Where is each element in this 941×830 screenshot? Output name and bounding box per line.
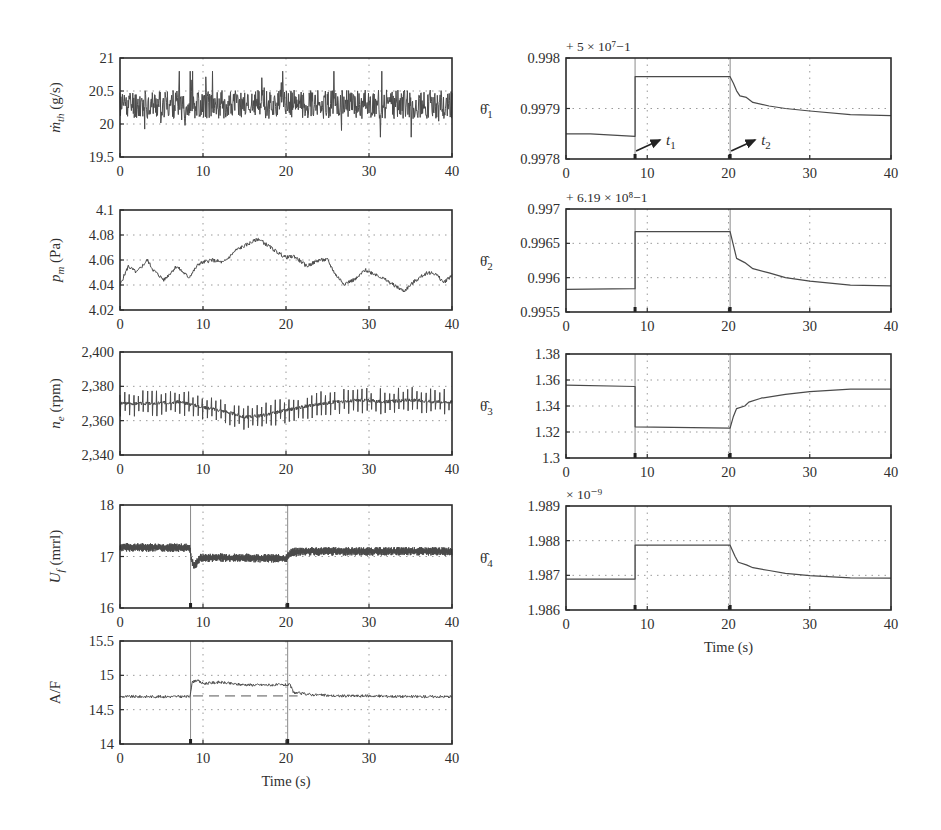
y-tick-label: 2,400 xyxy=(81,344,114,360)
series-line-ne xyxy=(120,387,452,429)
y-tick-label: 0.996 xyxy=(527,270,560,286)
x-tick-label: 0 xyxy=(562,318,569,334)
x-tick-label: 10 xyxy=(640,318,655,334)
x-tick-label: 20 xyxy=(721,616,736,632)
x-tick-label: 10 xyxy=(640,616,655,632)
y-tick-label: 2,360 xyxy=(81,413,114,429)
chart-panel-theta3: 0102030401.31.321.341.361.38θ̂3 xyxy=(480,346,898,480)
axis-multiplier: + 6.19 × 10⁸−1 xyxy=(566,190,648,205)
y-tick-label: 2,380 xyxy=(81,378,114,394)
series-line-theta1 xyxy=(566,77,891,137)
y-tick-label: 20 xyxy=(100,116,115,132)
y-axis-label: pm (Pa) xyxy=(47,238,66,283)
y-tick-label: 19.5 xyxy=(89,149,114,165)
x-tick-label: 40 xyxy=(445,461,460,477)
y-tick-label: 1.988 xyxy=(527,533,560,549)
x-tick-label: 40 xyxy=(445,163,460,179)
y-tick-label: 0.9979 xyxy=(520,101,560,117)
series-line-af xyxy=(120,680,452,698)
chart-panel-theta4: 0102030401.9861.9871.9881.989× 10⁻⁹θ̂4Ti… xyxy=(480,487,898,656)
y-axis-label: Uf (mrrl) xyxy=(47,530,66,583)
x-tick-label: 20 xyxy=(721,464,736,480)
y-axis-label: ṁth (g/s) xyxy=(47,82,66,133)
x-tick-label: 20 xyxy=(279,614,294,630)
y-tick-label: 21 xyxy=(100,50,115,66)
y-tick-label: 4.02 xyxy=(89,302,114,318)
plot-frame xyxy=(566,209,891,312)
y-tick-label: 14 xyxy=(100,736,115,752)
y-tick-label: 4.06 xyxy=(89,252,114,268)
y-tick-label: 4.08 xyxy=(89,227,114,243)
y-axis-label: θ̂1 xyxy=(480,101,493,120)
y-tick-label: 14.5 xyxy=(89,702,114,718)
series-line-pm xyxy=(120,238,452,292)
y-tick-label: 17 xyxy=(100,549,115,565)
x-tick-label: 10 xyxy=(640,165,655,181)
y-tick-label: 15 xyxy=(100,667,115,683)
x-tick-label: 30 xyxy=(362,163,377,179)
y-tick-label: 2,340 xyxy=(81,447,114,463)
figure: 01020304019.52020.521ṁth (g/s)0102030404… xyxy=(0,0,941,830)
x-tick-label: 10 xyxy=(196,316,211,332)
y-tick-label: 15.5 xyxy=(89,633,114,649)
y-axis-label: θ̂4 xyxy=(480,550,493,569)
chart-panel-ne: 0102030402,3402,3602,3802,400ne (rpm) xyxy=(47,344,459,477)
x-tick-label: 0 xyxy=(562,464,569,480)
x-tick-label: 10 xyxy=(196,461,211,477)
y-tick-label: 0.998 xyxy=(527,50,560,66)
y-tick-label: 1.3 xyxy=(542,450,560,466)
x-tick-label: 20 xyxy=(279,163,294,179)
chart-panel-af: 0102030401414.51515.5A/FTime (s) xyxy=(47,633,459,790)
x-tick-label: 0 xyxy=(116,750,123,766)
y-tick-label: 1.38 xyxy=(535,346,560,362)
series-line-theta4 xyxy=(566,545,891,579)
y-tick-label: 1.987 xyxy=(527,567,560,583)
y-tick-label: 4.04 xyxy=(89,277,115,293)
x-tick-label: 0 xyxy=(562,616,569,632)
y-axis-label: ne (rpm) xyxy=(47,378,66,428)
y-tick-label: 1.36 xyxy=(535,372,560,388)
chart-panel-mth: 01020304019.52020.521ṁth (g/s) xyxy=(47,50,459,179)
axis-multiplier: + 5 × 10⁷−1 xyxy=(566,39,631,54)
x-tick-label: 40 xyxy=(445,316,460,332)
x-tick-label: 20 xyxy=(721,318,736,334)
x-tick-label: 20 xyxy=(279,461,294,477)
event-label-t2: t2 xyxy=(761,132,771,151)
x-tick-label: 40 xyxy=(884,318,899,334)
x-tick-label: 20 xyxy=(721,165,736,181)
plot-frame xyxy=(120,641,452,744)
x-tick-label: 40 xyxy=(884,616,899,632)
x-tick-label: 40 xyxy=(445,614,460,630)
chart-panel-theta2: 0102030400.99550.9960.99650.997+ 6.19 × … xyxy=(480,190,898,334)
x-tick-label: 30 xyxy=(803,464,818,480)
y-tick-label: 4.1 xyxy=(96,202,114,218)
chart-panel-theta1: 0102030400.99780.99790.998+ 5 × 10⁷−1θ̂1… xyxy=(480,39,898,181)
x-tick-label: 10 xyxy=(640,464,655,480)
y-tick-label: 20.5 xyxy=(89,83,114,99)
y-tick-label: 0.9955 xyxy=(520,304,560,320)
y-tick-label: 18 xyxy=(100,497,115,513)
y-tick-label: 1.986 xyxy=(527,602,560,618)
y-tick-label: 0.9965 xyxy=(520,235,560,251)
x-tick-label: 20 xyxy=(279,316,294,332)
x-tick-label: 40 xyxy=(884,464,899,480)
y-axis-label: θ̂2 xyxy=(480,253,493,272)
y-axis-label: A/F xyxy=(47,681,63,704)
x-axis-title: Time (s) xyxy=(704,639,753,656)
y-tick-label: 1.34 xyxy=(535,398,561,414)
y-tick-label: 16 xyxy=(100,600,115,616)
y-tick-label: 0.9978 xyxy=(520,151,560,167)
x-tick-label: 10 xyxy=(196,614,211,630)
x-tick-label: 30 xyxy=(803,318,818,334)
x-tick-label: 40 xyxy=(884,165,899,181)
y-tick-label: 1.32 xyxy=(535,424,560,440)
x-tick-label: 0 xyxy=(116,316,123,332)
x-tick-label: 0 xyxy=(116,163,123,179)
x-tick-label: 20 xyxy=(279,750,294,766)
x-tick-label: 30 xyxy=(362,461,377,477)
x-tick-label: 30 xyxy=(362,750,377,766)
y-tick-label: 0.997 xyxy=(527,201,560,217)
event-label-t1: t1 xyxy=(666,132,676,151)
x-tick-label: 30 xyxy=(362,316,377,332)
x-tick-label: 0 xyxy=(116,614,123,630)
